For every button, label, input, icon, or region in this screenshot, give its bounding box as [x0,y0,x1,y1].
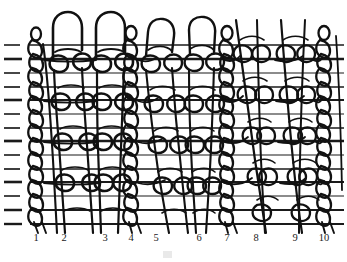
fabric-structure-illustration [0,0,347,262]
wale-label-1: 1 [26,231,46,245]
wale-label-10: 10 [314,231,334,245]
page-artifact [163,251,172,258]
wale-label-7: 7 [217,231,237,245]
wale-label-2: 2 [54,231,74,245]
diagram-canvas: 1 2 3 4 5 6 7 8 9 10 [0,0,347,262]
wale-label-6: 6 [189,231,209,245]
wale-label-4: 4 [121,231,141,245]
wale-label-3: 3 [95,231,115,245]
wale-label-8: 8 [246,231,266,245]
wale-label-9: 9 [285,231,305,245]
wale-label-5: 5 [146,231,166,245]
wale-number-axis: 1 2 3 4 5 6 7 8 9 10 [0,231,347,249]
